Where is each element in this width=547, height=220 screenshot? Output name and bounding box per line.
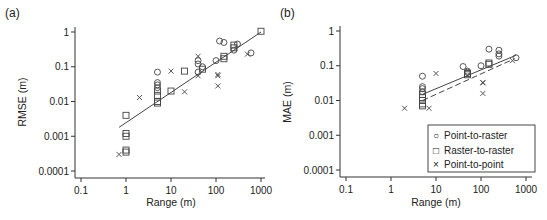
fit-line-dashed <box>422 60 512 101</box>
point-square <box>123 112 129 118</box>
x-tick-label: 1 <box>388 184 394 195</box>
point-circle <box>419 73 425 79</box>
point-x <box>117 152 122 157</box>
point-square <box>182 68 188 74</box>
x-tick-label: 0.1 <box>339 184 353 195</box>
panel-b-mae: (b) 10.10.010.0010.0001 0.11101001000 Ra… <box>280 6 538 208</box>
x-tick-label: 100 <box>208 185 225 196</box>
point-x <box>402 106 407 111</box>
point-x <box>427 106 432 111</box>
panel-b-label: (b) <box>280 6 295 20</box>
y-tick-label: 0.1 <box>55 61 69 72</box>
legend-label-raster-to-raster: Raster-to-raster <box>444 145 515 156</box>
panel-b-x-axis-label: Range (m) <box>411 196 461 208</box>
panel-b-y-ticks: 10.10.010.0010.0001 <box>303 26 340 176</box>
point-x <box>480 80 485 85</box>
point-square <box>154 92 160 98</box>
y-tick-label: 0.01 <box>315 95 335 106</box>
panel-a-y-ticks: 10.10.010.0010.0001 <box>38 27 75 177</box>
y-tick-label: 0.0001 <box>303 165 334 176</box>
x-tick-label: 100 <box>473 184 490 195</box>
point-circle <box>154 69 160 75</box>
legend-label-point-to-point: Point-to-point <box>444 159 504 170</box>
panel-a-points <box>117 28 264 157</box>
point-circle <box>486 46 492 52</box>
x-tick-label: 1 <box>123 185 129 196</box>
figure: (a) 10.10.010.0010.0001 0.11101001000 Ra… <box>0 0 547 220</box>
point-x <box>215 83 220 88</box>
y-tick-label: 1 <box>328 26 334 37</box>
x-tick-label: 10 <box>165 185 177 196</box>
panel-b-x-ticks: 0.11101001000 <box>339 177 538 195</box>
point-x <box>434 71 439 76</box>
point-x <box>480 91 485 96</box>
point-x <box>137 95 142 100</box>
legend-symbol-circle: ○ <box>433 130 439 141</box>
legend: ○ Point-to-raster □ Raster-to-raster × P… <box>428 125 535 172</box>
legend-label-point-to-raster: Point-to-raster <box>444 130 508 141</box>
panel-a-x-axis-label: Range (m) <box>146 196 196 208</box>
point-x <box>169 69 174 74</box>
point-circle <box>199 64 205 70</box>
panel-a-rmse: (a) 10.10.010.0010.0001 0.11101001000 Ra… <box>5 6 273 208</box>
y-tick-label: 0.1 <box>320 60 334 71</box>
point-x <box>245 52 250 57</box>
y-tick-label: 0.001 <box>309 130 334 141</box>
x-tick-label: 10 <box>430 184 442 195</box>
point-circle <box>478 63 484 69</box>
panel-a-y-axis-label: RMSE (m) <box>16 78 28 127</box>
x-tick-label: 1000 <box>515 184 538 195</box>
panel-a-x-ticks: 0.11101001000 <box>74 178 273 196</box>
y-tick-label: 1 <box>63 27 69 38</box>
x-tick-label: 0.1 <box>74 185 88 196</box>
legend-symbol-square: □ <box>433 145 439 156</box>
y-tick-label: 0.001 <box>44 131 69 142</box>
y-tick-label: 0.01 <box>50 96 70 107</box>
point-square <box>123 147 129 153</box>
y-tick-label: 0.0001 <box>38 166 69 177</box>
panel-a-label: (a) <box>5 6 20 20</box>
x-tick-label: 1000 <box>250 185 273 196</box>
point-x <box>182 89 187 94</box>
legend-symbol-x: × <box>433 159 439 170</box>
point-square <box>123 149 129 155</box>
panel-b-y-axis-label: MAE (m) <box>281 81 293 122</box>
